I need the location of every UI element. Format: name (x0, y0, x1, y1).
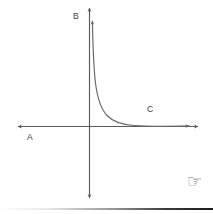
axis-label-b: B (73, 12, 79, 21)
pointing-hand-icon: ☞ (181, 172, 207, 192)
curve-label-c: C (147, 105, 153, 114)
axis-label-a: A (27, 133, 33, 142)
bottom-divider (0, 208, 213, 210)
curve-c (92, 21, 189, 126)
hyperbola-diagram: A B C ☞ (0, 0, 213, 214)
